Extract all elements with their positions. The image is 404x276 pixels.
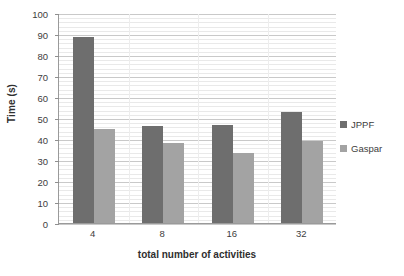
x-axis-tick-label: 4 bbox=[90, 228, 95, 239]
y-axis-tick-label: 30 bbox=[22, 156, 48, 167]
bar-jppf-16 bbox=[212, 125, 233, 223]
x-axis-tick-labels: 481632 bbox=[58, 228, 336, 244]
y-axis-tick-label: 10 bbox=[22, 198, 48, 209]
bar-group bbox=[268, 14, 338, 223]
bar-jppf-8 bbox=[142, 126, 163, 223]
bar-gaspar-4 bbox=[94, 129, 115, 224]
gridline-major bbox=[59, 224, 336, 225]
y-axis-tick-label: 60 bbox=[22, 93, 48, 104]
x-axis-tick-label: 32 bbox=[296, 228, 307, 239]
y-axis-tick-label: 90 bbox=[22, 30, 48, 41]
bar-group bbox=[198, 14, 268, 223]
bar-group bbox=[129, 14, 199, 223]
legend-swatch-icon bbox=[340, 145, 347, 152]
y-axis-tick-mark bbox=[55, 224, 59, 225]
y-axis-tick-label: 100 bbox=[22, 9, 48, 20]
bar-jppf-4 bbox=[73, 37, 94, 223]
legend-item-gaspar[interactable]: Gaspar bbox=[340, 143, 402, 154]
legend-label: Gaspar bbox=[351, 143, 382, 154]
legend-label: JPPF bbox=[351, 119, 374, 130]
bars-layer bbox=[59, 14, 336, 223]
y-axis-tick-label: 50 bbox=[22, 114, 48, 125]
y-axis-tick-label: 80 bbox=[22, 51, 48, 62]
y-axis-tick-label: 70 bbox=[22, 72, 48, 83]
bar-gaspar-16 bbox=[233, 153, 254, 223]
plot-area bbox=[58, 14, 336, 224]
legend-item-jppf[interactable]: JPPF bbox=[340, 119, 402, 130]
x-axis-tick-label: 8 bbox=[160, 228, 165, 239]
bar-group bbox=[59, 14, 129, 223]
y-axis-title: Time (s) bbox=[6, 69, 17, 139]
bar-gaspar-8 bbox=[163, 143, 184, 223]
legend: JPPFGaspar bbox=[340, 119, 402, 167]
y-axis-tick-label: 0 bbox=[22, 219, 48, 230]
bar-chart: Time (s) 0102030405060708090100 481632 t… bbox=[0, 0, 404, 276]
bar-gaspar-32 bbox=[302, 141, 323, 223]
x-axis-tick-label: 16 bbox=[226, 228, 237, 239]
y-axis-tick-label: 20 bbox=[22, 177, 48, 188]
y-axis-tick-labels: 0102030405060708090100 bbox=[24, 14, 52, 224]
y-axis-tick-label: 40 bbox=[22, 135, 48, 146]
legend-swatch-icon bbox=[340, 121, 347, 128]
x-axis-title: total number of activities bbox=[58, 249, 336, 260]
bar-jppf-32 bbox=[281, 112, 302, 223]
